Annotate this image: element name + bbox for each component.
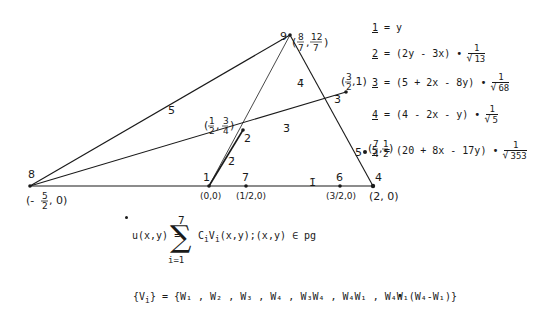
edge-8-3 [30, 92, 346, 186]
node-2-label: 2 [244, 132, 251, 145]
node-5-label: 5 [355, 146, 362, 159]
svg-text:4: 4 [223, 126, 229, 136]
formula-u-body: CiVi(x,y);(x,y) ∈ pg [198, 230, 316, 244]
inv-sqrt-68: 1 68 [492, 72, 509, 93]
node-1-label: 1 [203, 171, 210, 184]
node-4-label: 4 [375, 171, 382, 184]
svg-text:2: 2 [346, 82, 352, 92]
svg-text:1: 1 [209, 116, 215, 126]
node-8-label: 8 [28, 168, 35, 181]
svg-text:3: 3 [223, 116, 229, 126]
svg-text:2: 2 [42, 201, 48, 211]
svg-text:7: 7 [298, 43, 304, 53]
line-equation-2: 2 = (2y - 3x) • 1 13 [372, 43, 485, 64]
node-6-dot [338, 184, 342, 188]
svg-text:3: 3 [346, 72, 352, 82]
edge-label-5: 5̄ [168, 104, 175, 117]
svg-text:2: 2 [209, 126, 215, 136]
line-equation-5: 5 = (20 + 8x - 17y) • 1 353 [372, 140, 527, 161]
node-5-dot [363, 150, 367, 154]
coord-1: (0,0) [200, 191, 221, 201]
svg-text:,1): ,1) [352, 75, 367, 88]
line-equation-3: 3 = (5 + 2x - 8y) • 1 68 [372, 72, 509, 93]
edge-9-4 [290, 35, 373, 186]
edge-label-2: 2̄ [228, 155, 235, 168]
svg-text:(: ( [292, 36, 296, 49]
svg-text:7: 7 [313, 43, 319, 53]
inv-sqrt-13: 1 13 [468, 43, 485, 64]
coord-9: ( 8 7 , 12 7 ) [292, 32, 328, 53]
line-equation-4: 4 = (4 - 2x - y) • 1 5 [372, 104, 498, 125]
edge-1-2 [209, 130, 243, 186]
node-4-dot [371, 184, 375, 188]
svg-text:): ) [230, 119, 234, 132]
svg-text:,: , [216, 119, 220, 132]
inv-sqrt-5: 1 5 [486, 104, 497, 125]
sum-lower-limit: i=1 [168, 255, 184, 265]
svg-text:,: , [306, 36, 310, 49]
svg-text:(: ( [341, 75, 345, 88]
stray-dot [125, 216, 128, 219]
svg-text:8: 8 [298, 32, 304, 42]
coord-2: ( 1 2 , 3 4 ) [204, 116, 234, 136]
coord-3: ( 3 2 ,1) [341, 72, 367, 92]
svg-text:(-: (- [26, 194, 34, 207]
svg-text:): ) [324, 36, 328, 49]
edge-label-4: 4̄ [297, 77, 304, 90]
node-7-dot [244, 184, 248, 188]
edge-label-3: 3̄ [283, 122, 290, 135]
line-equation-1: 1 = y [372, 22, 402, 33]
node-7-label: 7 [242, 171, 249, 184]
coord-7: (1/2,0) [236, 191, 266, 201]
coord-4: (2, 0) [369, 190, 399, 203]
edge-8-9 [30, 35, 290, 186]
svg-text:12: 12 [311, 32, 322, 42]
edge-1-9 [209, 35, 290, 186]
node-8-dot [28, 184, 32, 188]
svg-text:5: 5 [42, 191, 48, 201]
node-1-dot [207, 184, 211, 188]
svg-text:, 0): , 0) [49, 194, 67, 207]
svg-text:(: ( [204, 119, 208, 132]
edge-label-1: 1̄ [309, 176, 316, 189]
trailing-dot: • [397, 290, 403, 301]
node-6-label: 6 [336, 171, 343, 184]
coord-6: (3/2,0) [326, 191, 356, 201]
formula-v: {Vi} = {W₁ , W₂ , W₃ , W₄ , W₃W₄ , W₄W₁ … [133, 291, 457, 305]
node-3-label: 3 [334, 93, 341, 106]
inv-sqrt-353: 1 353 [504, 140, 526, 161]
node-9-label: 9 [280, 30, 287, 43]
sigma-symbol: ∑ [170, 222, 191, 252]
coord-8: (- 5 2 , 0) [26, 191, 67, 211]
